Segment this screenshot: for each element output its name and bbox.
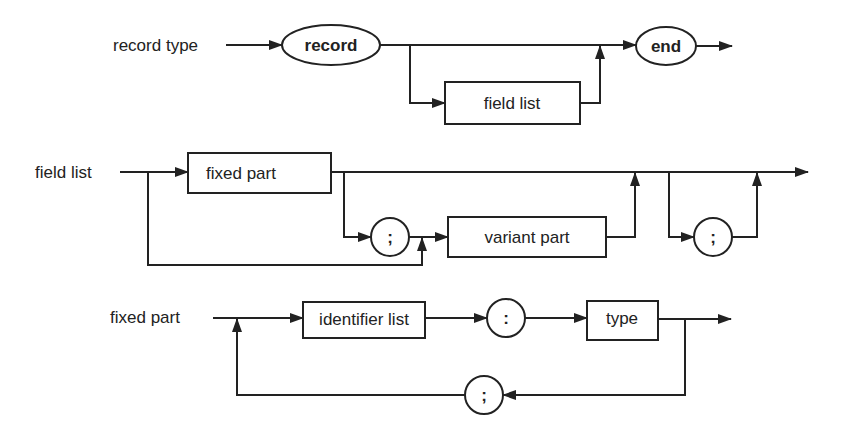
nonterminal-field-list-label: field list [484, 94, 541, 113]
rule-field-list: field list fixed part ; variant part ; [35, 153, 808, 265]
terminal-semicolon-label: ; [481, 386, 487, 405]
nonterminal-field-list: field list [445, 82, 580, 124]
return-line [606, 173, 635, 237]
return-line [580, 46, 600, 103]
branch-line [410, 45, 445, 103]
rule-name-fixed-part: fixed part [110, 308, 180, 327]
rule-record-type: record type record field list end [113, 25, 732, 124]
nonterminal-variant-part: variant part [448, 217, 606, 257]
nonterminal-fixed-part-label: fixed part [206, 164, 276, 183]
syntax-diagram: record type record field list end field … [0, 0, 842, 439]
rule-name-record-type: record type [113, 36, 198, 55]
branch-line [344, 172, 371, 237]
terminal-record: record [282, 25, 380, 65]
terminal-semicolon-2: ; [694, 218, 732, 256]
terminal-semicolon-label: ; [710, 228, 716, 247]
terminal-semicolon-loop: ; [465, 376, 503, 414]
terminal-semicolon-label: ; [387, 228, 393, 247]
terminal-end: end [636, 27, 696, 65]
nonterminal-variant-part-label: variant part [484, 228, 569, 247]
rule-fixed-part: fixed part identifier list : type ; [110, 299, 731, 414]
nonterminal-identifier-list: identifier list [303, 302, 425, 338]
terminal-end-label: end [651, 37, 681, 56]
terminal-record-label: record [305, 36, 358, 55]
terminal-colon: : [487, 299, 525, 337]
nonterminal-type: type [587, 301, 658, 340]
nonterminal-type-label: type [606, 309, 638, 328]
rule-name-field-list: field list [35, 163, 92, 182]
branch-line [669, 172, 694, 237]
terminal-colon-label: : [503, 309, 509, 328]
terminal-semicolon-1: ; [371, 218, 409, 256]
nonterminal-fixed-part: fixed part [188, 153, 331, 193]
return-line [732, 173, 757, 237]
nonterminal-identifier-list-label: identifier list [319, 310, 409, 329]
